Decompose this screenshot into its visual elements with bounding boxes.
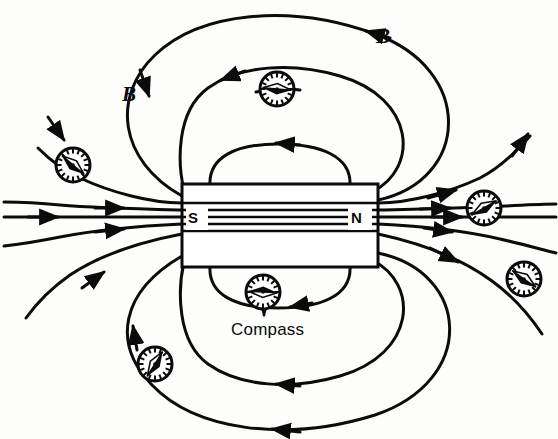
compass-right-upper — [467, 191, 501, 225]
compass-upper-left — [56, 148, 90, 182]
field-line-outer-top-arrow-left — [140, 70, 149, 96]
compass-pivot — [522, 277, 526, 281]
field-line-left-entry-5-arrow — [82, 272, 104, 288]
field-line-outer-bottom — [127, 253, 449, 430]
compass-pivot — [153, 362, 157, 366]
field-line-left-entry-5 — [26, 234, 182, 318]
field-line-inner-top-arrow — [276, 143, 300, 145]
field-line-diagram — [0, 0, 558, 439]
field-line-right-exit-4 — [378, 224, 556, 253]
compass-callout-label: Compass — [231, 320, 304, 340]
field-line-left-entry-1-arrow — [48, 117, 64, 140]
compass-top — [260, 72, 294, 106]
south-pole-label: S — [188, 209, 198, 226]
field-label-b-right: B — [376, 24, 390, 49]
north-pole-label: N — [351, 209, 362, 226]
compass-pivot — [482, 206, 486, 210]
compass-right-lower — [507, 262, 541, 296]
field-line-right-exit-1b-arrow — [512, 134, 528, 156]
field-line-right-exit-5-arrow — [430, 248, 458, 262]
field-line-right-exit-2-arrow — [420, 208, 450, 209]
field-line-left-entry-2 — [4, 202, 182, 210]
compass-pivot — [261, 290, 265, 294]
bar-magnet — [182, 184, 378, 267]
field-line-outer-top — [127, 16, 448, 200]
field-line-outer-bottom-arrow-left — [133, 326, 137, 350]
compass-bottom-left — [138, 347, 172, 381]
compass-bottom-center — [246, 275, 280, 309]
field-line-inner-top — [210, 144, 350, 186]
field-line-left-entry-4 — [4, 224, 182, 246]
field-line-second-top-arrow — [221, 71, 245, 80]
field-label-b-left: B — [122, 82, 136, 107]
compass-pivot — [71, 163, 75, 167]
figure-canvas: S N B B Compass — [0, 0, 558, 439]
compass-pivot — [275, 87, 279, 91]
field-line-second-bottom-arrow — [276, 384, 300, 386]
